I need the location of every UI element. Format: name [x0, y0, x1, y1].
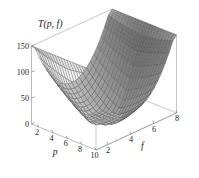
p-axis-title: p: [52, 147, 58, 157]
z-tick-mark: [32, 71, 35, 72]
z-tick-mark: [32, 123, 35, 124]
p-tick-label: 6: [64, 139, 68, 148]
p-tick-label: 4: [49, 134, 53, 143]
f-tick-label: 6: [152, 125, 156, 134]
p-tick-label: 8: [78, 145, 82, 154]
z-tick-mark: [32, 45, 35, 46]
plot-title: T(p, f): [38, 18, 63, 30]
z-tick-mark: [32, 97, 35, 98]
f-tick-label: 2: [106, 146, 110, 155]
f-axis-title: f: [141, 141, 145, 151]
plot-canvas: 2468102468050100150pfT(p, f): [0, 0, 199, 178]
f-tick-label: 4: [129, 135, 133, 144]
surface-plot-figure: 2468102468050100150pfT(p, f): [0, 0, 199, 178]
f-tick-label: 8: [175, 114, 179, 123]
z-tick-label: 50: [21, 94, 29, 103]
z-tick-label: 150: [17, 42, 29, 51]
z-tick-label: 0: [25, 120, 29, 129]
z-tick-label: 100: [17, 68, 29, 77]
p-tick-label: 2: [35, 128, 39, 137]
p-tick-label: 10: [90, 151, 98, 160]
